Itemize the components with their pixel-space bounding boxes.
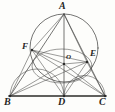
vertex-dot-f (31, 49, 33, 51)
semicircle-on-DC (64, 76, 105, 97)
point-label-d: D (58, 97, 65, 107)
point-label-b: B (4, 97, 11, 107)
vertex-dot-e (86, 61, 88, 63)
point-label-f: F (22, 42, 28, 51)
vertex-dot-o (63, 63, 65, 65)
segment-BF (10, 50, 32, 96)
segment-EC (87, 62, 105, 96)
point-label-c: C (99, 97, 106, 107)
cevian-AF (32, 14, 64, 50)
point-label-a: A (59, 1, 66, 11)
arc-group (10, 69, 105, 96)
geometry-figure: AFEOBDC (0, 0, 115, 112)
segment-CO (64, 64, 105, 96)
point-label-o: O (66, 54, 71, 61)
point-label-e: E (90, 49, 96, 58)
